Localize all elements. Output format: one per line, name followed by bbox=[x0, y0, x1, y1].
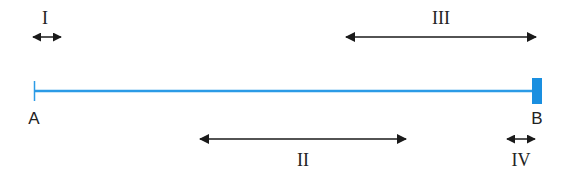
endpoint-a-label: A bbox=[28, 109, 40, 128]
arrow-iii-label: III bbox=[432, 8, 450, 28]
segment-diagram: A B I III II IV bbox=[0, 0, 572, 175]
arrow-iii: III bbox=[346, 8, 536, 37]
arrow-ii-label: II bbox=[297, 150, 309, 170]
arrow-i: I bbox=[33, 8, 61, 37]
arrow-iv-label: IV bbox=[512, 150, 531, 170]
endpoint-b-label: B bbox=[531, 109, 542, 128]
segment-ab: A B bbox=[28, 78, 542, 128]
arrow-i-label: I bbox=[42, 8, 48, 28]
arrow-iv: IV bbox=[507, 139, 535, 170]
endpoint-b-block bbox=[532, 78, 542, 104]
arrow-ii: II bbox=[200, 139, 406, 170]
